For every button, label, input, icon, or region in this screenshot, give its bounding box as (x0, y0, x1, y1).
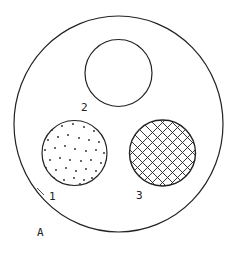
circle-1 (42, 121, 107, 186)
label-3: 3 (136, 189, 143, 202)
diagram: 2 1 3 A (0, 0, 232, 267)
label-1-leader (37, 188, 44, 195)
label-2: 2 (81, 101, 88, 114)
circle-1-dots (44, 123, 105, 186)
label-1: 1 (49, 190, 56, 203)
outer-circle-a (14, 16, 223, 232)
circle-2 (85, 40, 152, 107)
label-a: A (37, 226, 44, 239)
